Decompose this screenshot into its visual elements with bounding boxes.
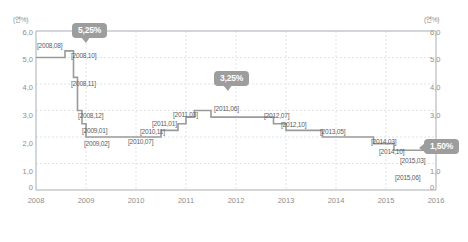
callout-150-label: 1,50% <box>430 141 453 151</box>
point-label-2010-11: [2010,11] <box>140 128 165 135</box>
point-label-2012-07: [2012,07] <box>264 112 289 119</box>
point-label-2011-06: [2011,06] <box>214 105 239 112</box>
callout-525-label: 5,25% <box>78 25 101 35</box>
callout-tail-icon <box>223 85 232 91</box>
point-label-2008-08: [2008,08] <box>37 42 62 49</box>
point-label-2015-03: [2015,03] <box>400 157 425 164</box>
callout-tail-icon <box>419 143 425 152</box>
callout-325-label: 3,25% <box>220 73 243 83</box>
plot-area <box>0 0 468 242</box>
point-label-2012-10: [2012,10] <box>281 121 306 128</box>
point-label-2015-06: [2015,06] <box>395 174 420 181</box>
base-rate-step-chart: (연%) (연%) 6,0 5,0 4,0 3,0 2,0 1,0 0 6,0 … <box>0 0 468 242</box>
callout-325: 3,25% <box>214 71 249 86</box>
callout-tail-icon <box>81 37 90 43</box>
point-label-2011-01: [2011,01] <box>152 120 177 127</box>
point-label-2014-10: [2014,10] <box>379 148 404 155</box>
point-label-2008-12: [2008,12] <box>78 112 103 119</box>
point-label-2010-07: [2010,07] <box>128 138 153 145</box>
callout-525: 5,25% <box>72 23 107 38</box>
point-label-2013-05: [2013,05] <box>320 128 345 135</box>
point-label-2014-03: [2014,03] <box>371 138 396 145</box>
point-label-2008-10: [2008,10] <box>71 52 96 59</box>
point-label-2011-03: [2011,03] <box>173 111 198 118</box>
point-label-2009-02: [2009,02] <box>84 140 109 147</box>
point-label-2008-11: [2008,11] <box>71 80 96 87</box>
callout-150: 1,50% <box>424 139 459 154</box>
point-label-2009-01: [2009,01] <box>82 127 107 134</box>
